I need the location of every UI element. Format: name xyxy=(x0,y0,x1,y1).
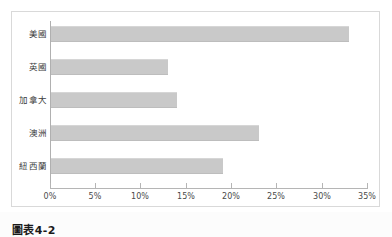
x-tick-7 xyxy=(367,183,368,189)
x-tick-label-0: 0% xyxy=(44,192,57,201)
x-tick-label-4: 20% xyxy=(222,192,240,201)
x-tick-label-1: 5% xyxy=(89,192,102,201)
x-tick-label-2: 10% xyxy=(131,192,149,201)
figure-root: 美國 英國 加拿大 澳洲 紐西蘭 0% 5% 10% 15% 20% 25% xyxy=(0,0,392,237)
x-axis-line xyxy=(50,188,367,189)
bar-4 xyxy=(51,158,223,174)
x-tick-label-5: 25% xyxy=(267,192,285,201)
bar-0 xyxy=(51,26,349,42)
x-tick-label-6: 30% xyxy=(313,192,331,201)
category-label-0: 美國 xyxy=(29,27,47,41)
bar-2 xyxy=(51,92,177,108)
page-background-band xyxy=(0,212,392,237)
figure-caption: 圖表4-2 xyxy=(12,221,56,237)
category-label-4: 紐西蘭 xyxy=(19,159,47,173)
bar-1 xyxy=(51,59,168,75)
x-tick-label-7: 35% xyxy=(358,192,376,201)
bar-3 xyxy=(51,125,259,141)
category-axis-labels: 美國 英國 加拿大 澳洲 紐西蘭 xyxy=(12,21,49,188)
bars-layer xyxy=(51,21,367,188)
category-label-3: 澳洲 xyxy=(29,126,47,140)
category-label-2: 加拿大 xyxy=(19,93,47,107)
category-label-1: 英國 xyxy=(29,60,47,74)
x-tick-label-3: 15% xyxy=(177,192,195,201)
plot-area: 美國 英國 加拿大 澳洲 紐西蘭 0% 5% 10% 15% 20% 25% xyxy=(12,12,381,208)
chart-frame: 美國 英國 加拿大 澳洲 紐西蘭 0% 5% 10% 15% 20% 25% xyxy=(11,11,380,207)
